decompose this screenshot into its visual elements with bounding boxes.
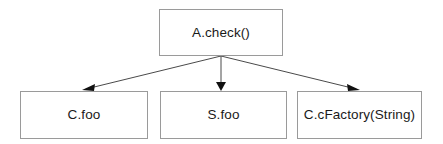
- node-s-foo[interactable]: S.foo: [160, 91, 287, 139]
- edge-root-to-sfoo: [216, 56, 226, 91]
- node-label-c-cfactory-string: C.cFactory(String): [304, 108, 415, 122]
- edge-line-root-to-cfoo: [90, 56, 221, 88]
- diagram-canvas: A.check() C.foo S.foo C.cFactory(String): [0, 0, 443, 144]
- edge-root-to-cfactory: [221, 56, 360, 91]
- arrowhead-icon-root-to-sfoo: [216, 82, 226, 91]
- node-c-cfactory-string[interactable]: C.cFactory(String): [297, 91, 422, 139]
- node-label-a-check: A.check(): [192, 26, 250, 40]
- arrowhead-icon-root-to-cfactory: [347, 84, 360, 91]
- arrowhead-icon-root-to-cfoo: [82, 84, 95, 91]
- node-c-foo[interactable]: C.foo: [20, 91, 148, 139]
- node-label-s-foo: S.foo: [207, 108, 239, 122]
- edge-root-to-cfoo: [82, 56, 221, 91]
- node-a-check[interactable]: A.check(): [159, 9, 283, 56]
- edge-line-root-to-cfactory: [221, 56, 352, 88]
- node-label-c-foo: C.foo: [68, 108, 101, 122]
